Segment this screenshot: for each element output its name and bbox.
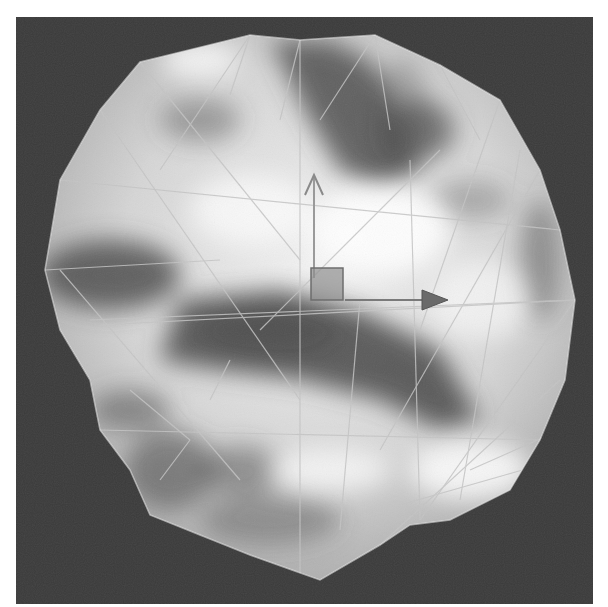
- 3d-viewport[interactable]: [16, 17, 593, 604]
- gizmo-center-box[interactable]: [311, 268, 343, 300]
